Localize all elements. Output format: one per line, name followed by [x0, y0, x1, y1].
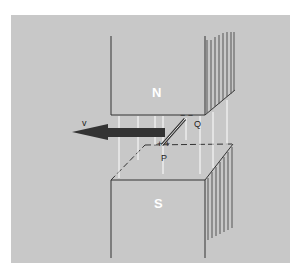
point-p-label: P: [161, 153, 167, 163]
charge-signs-top: − −: [180, 110, 193, 120]
north-magnet-outline: [111, 36, 205, 115]
north-pole-label: N: [152, 85, 161, 100]
velocity-label: v: [82, 118, 87, 128]
charge-signs-bottom: + +: [157, 139, 170, 149]
south-pole-label: S: [154, 196, 163, 211]
south-magnet-outline: [111, 180, 205, 258]
magnet-diagram: [0, 0, 301, 277]
point-q-label: Q: [194, 119, 201, 129]
